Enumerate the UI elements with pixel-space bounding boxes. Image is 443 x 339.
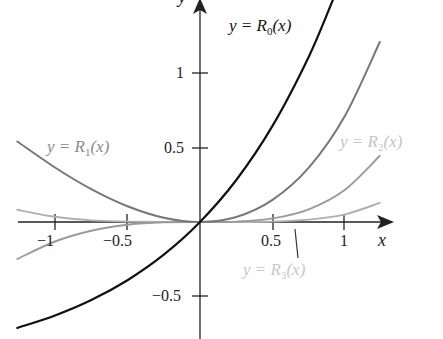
r0-label-suffix: (x) [272, 16, 291, 35]
y-axis-label: y [178, 0, 186, 6]
x-tick-label-neg1: −1 [37, 233, 54, 249]
r1-label-suffix: (x) [90, 137, 109, 156]
curve-r2 [17, 156, 380, 259]
r3-label: y = R3(x) [243, 261, 305, 281]
x-tick-label-pos1: 1 [340, 233, 348, 249]
r1-label-prefix: y = [47, 137, 75, 156]
r3-label-func: R [271, 260, 281, 279]
r0-label-func: R [257, 16, 267, 35]
x-tick-label-pos05: 0.5 [261, 233, 281, 249]
curve-r3 [17, 203, 380, 222]
curves [17, 0, 380, 328]
x-axis-label: x [378, 231, 386, 249]
r2-label-func: R [368, 132, 378, 151]
axes [18, 0, 394, 339]
r1-label: y = R1(x) [47, 138, 109, 158]
r3-leader-line [295, 229, 298, 258]
y-tick-label-pos1: 1 [176, 65, 184, 81]
r1-label-func: R [75, 137, 85, 156]
x-tick-label-neg05: −0.5 [103, 233, 132, 249]
r3-label-suffix: (x) [286, 260, 305, 279]
y-tick-label-pos05: 0.5 [164, 140, 184, 156]
y-tick-label-neg05: −0.5 [152, 288, 181, 304]
r2-label-prefix: y = [340, 132, 368, 151]
curve-r1 [17, 42, 380, 222]
r3-label-prefix: y = [243, 260, 271, 279]
chart-canvas [0, 0, 443, 339]
r2-label-suffix: (x) [383, 132, 402, 151]
r2-label: y = R2(x) [340, 133, 402, 153]
r0-label: y = R0(x) [229, 17, 291, 37]
r0-label-prefix: y = [229, 16, 257, 35]
